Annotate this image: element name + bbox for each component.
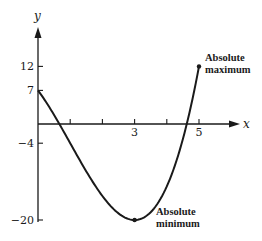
absolute-maximum-point	[197, 64, 201, 68]
function-curve	[38, 66, 199, 220]
x-ticks: 35	[70, 119, 202, 139]
x-tick-label: 3	[131, 126, 138, 139]
function-plot: x y 35 127−4−20 Absolute maximum Absolut…	[0, 0, 262, 241]
y-tick-label: 7	[27, 84, 34, 97]
y-tick-label: −20	[11, 214, 34, 227]
x-axis-arrow-icon	[229, 121, 240, 128]
max-annotation-line2: maximum	[205, 64, 251, 75]
x-tick-label: 5	[196, 126, 203, 139]
y-axis-label: y	[33, 9, 41, 23]
absolute-minimum-point	[132, 218, 136, 222]
min-annotation-line1: Absolute	[156, 206, 196, 217]
x-axis-label: x	[243, 117, 250, 131]
max-annotation-line1: Absolute	[205, 52, 245, 63]
y-tick-label: −4	[18, 137, 34, 150]
min-annotation-line2: minimum	[156, 218, 200, 229]
y-tick-label: 12	[20, 60, 34, 73]
y-axis-arrow-icon	[35, 27, 42, 38]
